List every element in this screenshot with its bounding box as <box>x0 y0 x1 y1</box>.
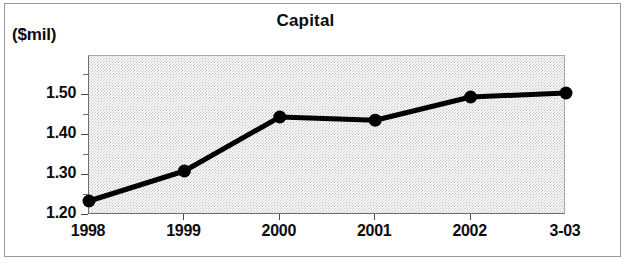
y-axis-label: 1.20 <box>4 204 76 222</box>
x-axis-tick <box>279 214 280 220</box>
chart-figure: ($mil) Capital 1.201.301.401.50199819992… <box>0 0 634 266</box>
y-axis-minor-tick <box>83 74 88 75</box>
x-axis-label: 2000 <box>234 222 324 240</box>
y-axis-tick <box>81 214 88 215</box>
x-axis-label: 2001 <box>329 222 419 240</box>
y-axis-label: 1.30 <box>4 164 76 182</box>
y-axis-minor-tick <box>83 154 88 155</box>
y-axis-tick <box>81 134 88 135</box>
series-line-capital <box>81 48 574 223</box>
x-axis-label: 3-03 <box>520 222 610 240</box>
data-point-marker <box>464 91 477 104</box>
x-axis-label: 2002 <box>425 222 515 240</box>
x-axis-label: 1999 <box>138 222 228 240</box>
chart-title: Capital <box>0 11 611 31</box>
x-axis-tick <box>374 214 375 220</box>
x-axis-tick <box>470 214 471 220</box>
x-axis-label: 1998 <box>43 222 133 240</box>
y-axis-minor-tick <box>83 114 88 115</box>
plot-area <box>88 55 565 214</box>
y-axis-tick <box>81 94 88 95</box>
data-point-marker <box>369 114 382 127</box>
y-axis-tick <box>81 174 88 175</box>
y-axis-label: 1.40 <box>4 124 76 142</box>
y-axis-label: 1.50 <box>4 84 76 102</box>
y-axis-minor-tick <box>83 194 88 195</box>
x-axis-tick <box>183 214 184 220</box>
data-point-marker <box>273 111 286 124</box>
data-point-marker <box>178 165 191 178</box>
